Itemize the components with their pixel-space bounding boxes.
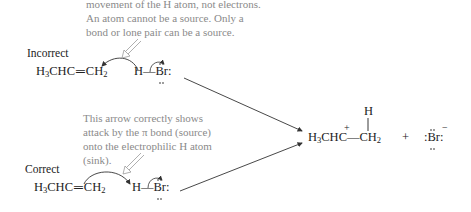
incorrect-hollow-arrow-icon	[122, 39, 141, 58]
correct-reaction-arrow-icon	[180, 143, 302, 191]
incorrect-bond-arrow-icon	[150, 62, 164, 72]
incorrect-reaction-arrow-icon	[184, 78, 302, 131]
correct-hollow-arrow-icon	[123, 153, 144, 174]
incorrect-curved-arrow-icon	[102, 58, 138, 70]
incorrect-br-dots	[159, 63, 164, 84]
arrows-layer	[0, 0, 471, 212]
bromide-dots	[430, 129, 435, 150]
correct-br-dots	[157, 179, 162, 200]
correct-bond-arrow-icon	[148, 178, 162, 188]
